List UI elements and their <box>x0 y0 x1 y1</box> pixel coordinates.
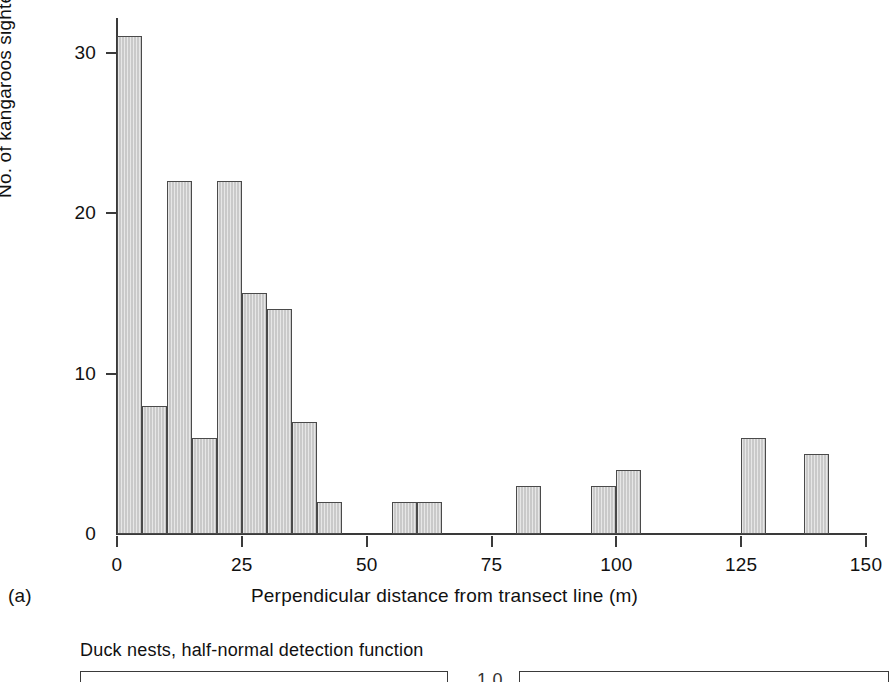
histogram-bar <box>292 422 317 534</box>
x-tick-125 <box>740 536 742 547</box>
y-tick-label-30: 30 <box>74 43 96 62</box>
histogram-bar <box>142 406 167 534</box>
histogram-bar <box>516 486 541 534</box>
x-tick-label-0: 0 <box>112 555 123 574</box>
y-tick-label-0: 0 <box>85 524 96 543</box>
histogram-bar <box>591 486 616 534</box>
histogram-bar <box>741 438 766 534</box>
histogram-bar <box>267 309 292 534</box>
histogram-bar <box>167 181 192 534</box>
x-tick-50 <box>366 536 368 547</box>
plot-area <box>117 30 866 534</box>
y-tick-label-10: 10 <box>74 364 96 383</box>
histogram-bar <box>242 293 267 534</box>
histogram-bar <box>192 438 217 534</box>
panel-label-a: (a) <box>8 585 32 607</box>
panel-b-right-axis-tick-label: 1.0 <box>477 670 503 682</box>
panel-b-left-plot-frame <box>80 671 448 682</box>
panel-b-fragment: Duck nests, half-normal detection functi… <box>0 640 889 682</box>
x-tick-label-25: 25 <box>231 555 253 574</box>
x-tick-label-75: 75 <box>481 555 503 574</box>
x-tick-label-100: 100 <box>600 555 632 574</box>
panel-b-title: Duck nests, half-normal detection functi… <box>80 640 424 661</box>
y-tick-10 <box>106 373 117 375</box>
y-tick-30 <box>106 52 117 54</box>
panel-a-histogram: 0102030 0255075100125150 No. of kangaroo… <box>0 0 889 610</box>
histogram-bar <box>804 454 829 534</box>
histogram-bar <box>217 181 242 534</box>
y-axis-title: No. of kangaroos sighted <box>0 0 16 250</box>
figure-kangaroo-histogram: 0102030 0255075100125150 No. of kangaroo… <box>0 0 889 682</box>
x-tick-75 <box>491 536 493 547</box>
x-tick-label-150: 150 <box>850 555 882 574</box>
x-tick-100 <box>615 536 617 547</box>
x-tick-150 <box>865 536 867 547</box>
histogram-bar <box>317 502 342 534</box>
x-tick-0 <box>116 536 118 547</box>
x-axis-title: Perpendicular distance from transect lin… <box>0 585 889 607</box>
histogram-bar <box>616 470 641 534</box>
histogram-bar <box>117 36 142 534</box>
histogram-bar <box>417 502 442 534</box>
y-tick-20 <box>106 212 117 214</box>
panel-b-right-plot-frame <box>519 671 889 682</box>
x-tick-label-50: 50 <box>356 555 378 574</box>
x-tick-25 <box>241 536 243 547</box>
x-tick-label-125: 125 <box>725 555 757 574</box>
histogram-bar <box>392 502 417 534</box>
y-tick-label-20: 20 <box>74 203 96 222</box>
